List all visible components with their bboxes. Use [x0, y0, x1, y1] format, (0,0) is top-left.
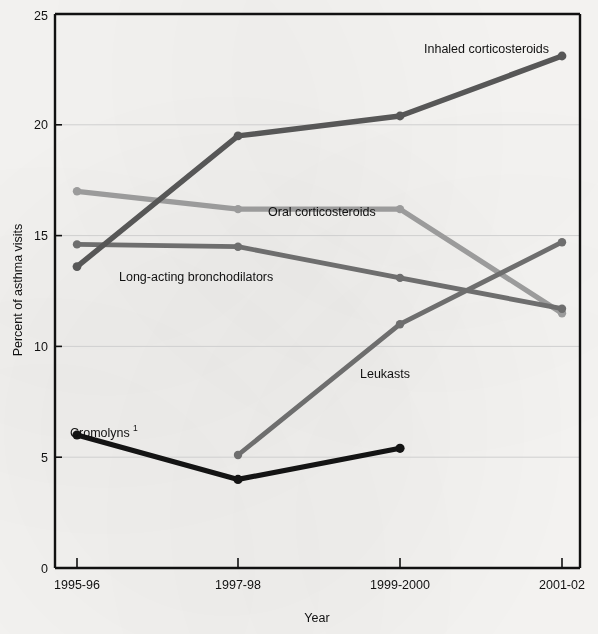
data-point	[233, 475, 242, 484]
series-leukasts	[234, 238, 566, 459]
data-point	[558, 238, 566, 246]
y-tick-label-20: 20	[34, 118, 48, 132]
x-tick-label-1999-2000: 1999-2000	[370, 578, 430, 592]
y-tick-label-25: 25	[34, 9, 48, 23]
data-point	[234, 451, 242, 459]
data-point	[558, 305, 566, 313]
y-tick-label-5: 5	[41, 451, 48, 465]
asthma-medication-line-chart: 0 5 10 15 20 25 1995-96 1997-98 1999-200…	[0, 0, 598, 634]
y-tick-label-15: 15	[34, 229, 48, 243]
series-line-inhaled-corticosteroids	[77, 56, 562, 267]
data-point	[558, 52, 567, 61]
data-point	[395, 444, 404, 453]
gridlines	[55, 125, 580, 457]
plot-frame	[55, 14, 580, 568]
x-tick-label-2001-02: 2001-02	[539, 578, 585, 592]
y-axis-title: Percent of asthma visits	[11, 224, 25, 357]
cromolyns-footnote-marker: 1	[133, 423, 138, 433]
data-point	[234, 205, 242, 213]
x-tick-marks	[77, 558, 562, 568]
data-point	[73, 187, 81, 195]
data-point	[73, 240, 81, 248]
data-point	[396, 274, 404, 282]
data-point	[234, 243, 242, 251]
chart-figure: 0 5 10 15 20 25 1995-96 1997-98 1999-200…	[0, 0, 598, 634]
data-point	[396, 320, 404, 328]
series-inhaled-corticosteroids	[73, 52, 567, 271]
series-label-inhaled-corticosteroids: Inhaled corticosteroids	[424, 42, 549, 56]
data-point	[234, 132, 243, 141]
y-tick-labels: 0 5 10 15 20 25	[34, 9, 48, 576]
data-point	[73, 262, 82, 271]
series-label-oral-corticosteroids: Oral corticosteroids	[268, 205, 376, 219]
series-annotations: Inhaled corticosteroids Oral corticoster…	[70, 42, 549, 440]
x-tick-label-1995-96: 1995-96	[54, 578, 100, 592]
x-tick-labels: 1995-96 1997-98 1999-2000 2001-02	[54, 578, 585, 592]
data-point	[396, 205, 404, 213]
x-axis-title: Year	[304, 611, 329, 625]
series-label-cromolyns: Cromolyns	[70, 426, 130, 440]
x-tick-label-1997-98: 1997-98	[215, 578, 261, 592]
series-label-cromolyns-group: Cromolyns 1	[70, 423, 138, 440]
series-label-long-acting-bronchodilators: Long-acting bronchodilators	[119, 270, 273, 284]
series-label-leukasts: Leukasts	[360, 367, 410, 381]
y-tick-label-0: 0	[41, 562, 48, 576]
y-tick-label-10: 10	[34, 340, 48, 354]
data-point	[396, 112, 405, 121]
